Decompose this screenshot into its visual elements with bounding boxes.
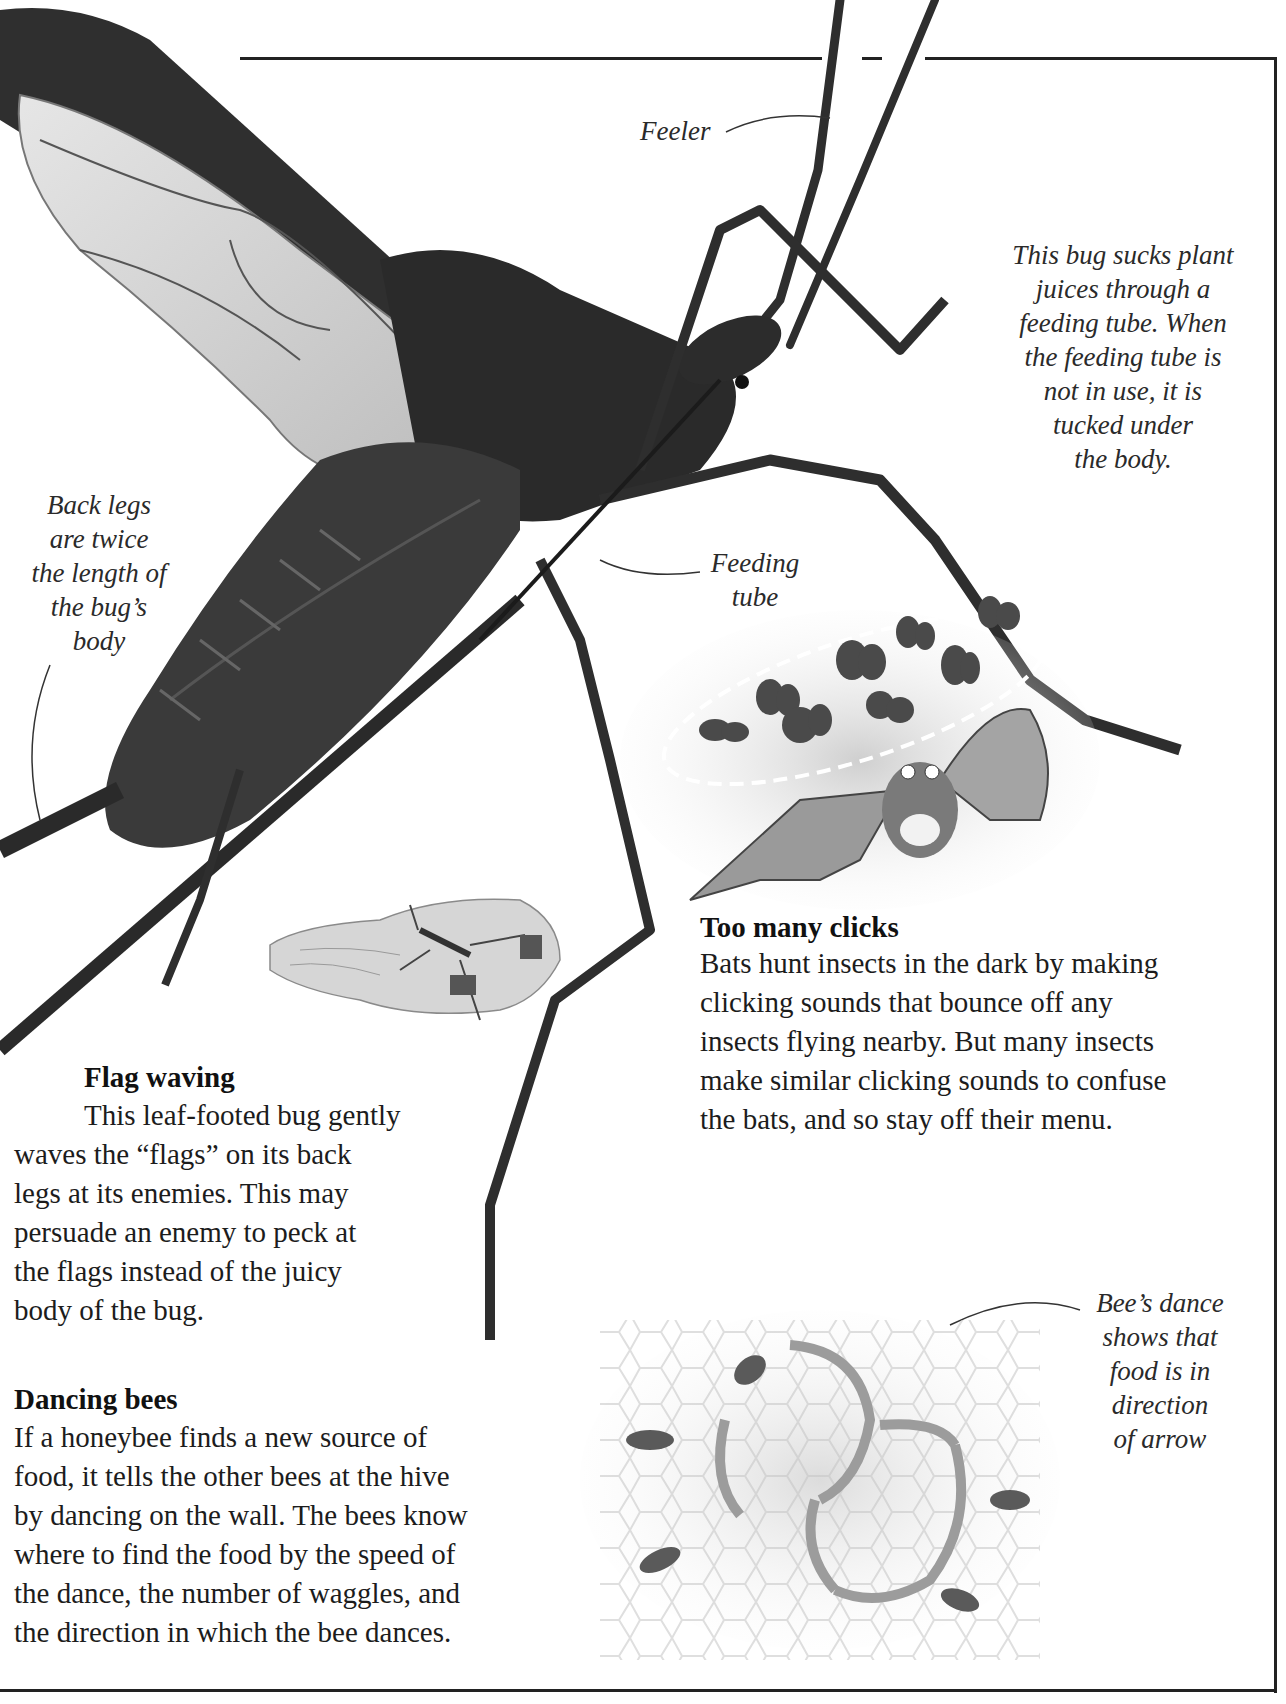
dancing-bees-body: If a honeybee finds a new source of food… — [14, 1418, 574, 1652]
feeding-tube-label: Feeding tube — [700, 546, 810, 614]
feeding-tube-leader-line — [600, 560, 700, 574]
feeler-label: Feeler — [640, 114, 710, 148]
feeler-leader-line — [726, 116, 830, 132]
flag-waving-body: waves the “flags” on its back legs at it… — [14, 1135, 454, 1330]
honeybee-dance-illustration — [580, 1310, 1060, 1660]
dancing-bees-heading: Dancing bees — [14, 1382, 178, 1416]
leaf-footed-bug-on-hand-illustration — [270, 899, 560, 1020]
bat-hunting-moths-illustration — [620, 581, 1100, 910]
too-many-clicks-heading: Too many clicks — [700, 910, 899, 944]
flag-waving-body-first-line: This leaf-footed bug gently — [84, 1096, 401, 1135]
too-many-clicks-body: Bats hunt insects in the dark by making … — [700, 944, 1260, 1139]
flag-waving-heading: Flag waving — [84, 1060, 235, 1094]
feeding-tube-note: This bug sucks plant juices through a fe… — [978, 238, 1268, 476]
back-legs-leader-line — [32, 665, 50, 820]
bee-dance-label: Bee’s dance shows that food is in direct… — [1085, 1286, 1235, 1456]
back-legs-label: Back legs are twice the length of the bu… — [14, 488, 184, 658]
